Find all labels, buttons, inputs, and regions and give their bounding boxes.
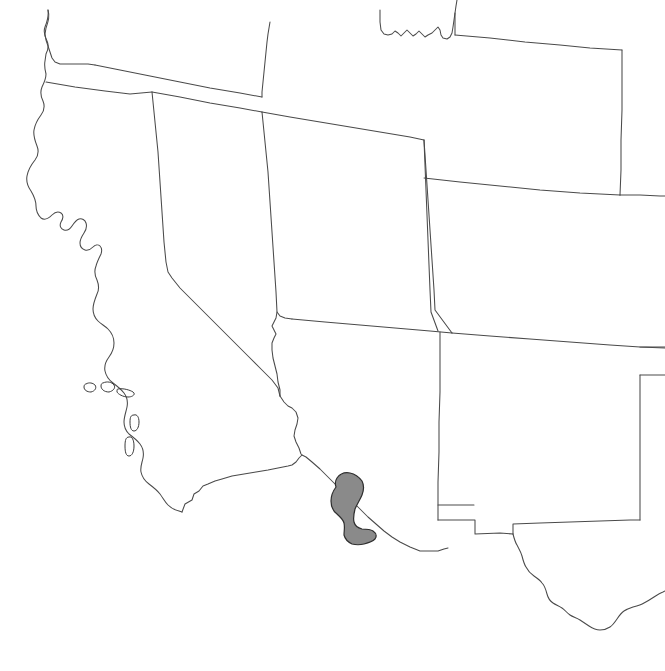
map-background xyxy=(0,0,665,671)
range-map-figure xyxy=(0,0,665,671)
map-canvas xyxy=(0,0,665,671)
